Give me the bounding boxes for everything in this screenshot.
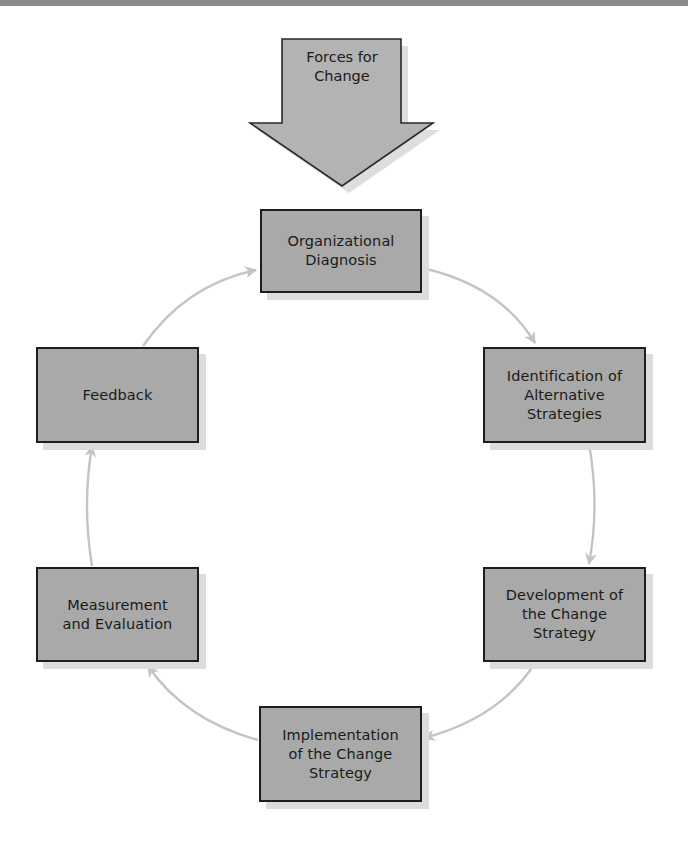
node-label: Feedback bbox=[83, 386, 153, 405]
node-label: Development of the Change Strategy bbox=[506, 586, 624, 643]
node-implementation-of-the-change-strategy: Implementation of the Change Strategy bbox=[259, 706, 422, 802]
node-development-of-the-change-strategy: Development of the Change Strategy bbox=[483, 567, 646, 662]
connector-measurement-to-feedback bbox=[87, 446, 92, 566]
connector-implementation-to-measurement bbox=[148, 666, 258, 740]
forces-for-change-label: Forces for Change bbox=[282, 48, 402, 86]
node-label: Identification of Alternative Strategies bbox=[507, 367, 622, 424]
connector-diagnosis-to-identification bbox=[422, 268, 535, 343]
node-label: Implementation of the Change Strategy bbox=[282, 726, 399, 783]
node-label: Organizational Diagnosis bbox=[287, 232, 394, 270]
connector-feedback-to-diagnosis bbox=[143, 270, 256, 346]
node-feedback: Feedback bbox=[36, 347, 199, 443]
node-organizational-diagnosis: Organizational Diagnosis bbox=[260, 209, 422, 293]
connector-identification-to-development bbox=[589, 444, 595, 564]
node-label: Measurement and Evaluation bbox=[63, 596, 173, 634]
node-measurement-and-evaluation: Measurement and Evaluation bbox=[36, 567, 199, 662]
node-identification-of-alternative-strategies: Identification of Alternative Strategies bbox=[483, 347, 646, 443]
connector-development-to-implementation bbox=[424, 663, 535, 738]
